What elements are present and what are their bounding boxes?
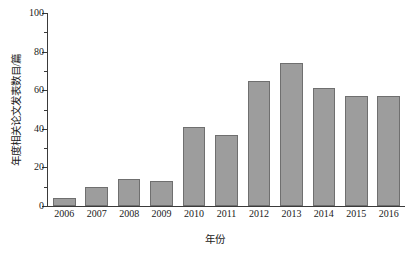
x-axis-title: 年份 — [0, 231, 416, 246]
x-axis-line — [47, 206, 405, 207]
y-tick-minor — [44, 32, 47, 33]
bar — [248, 81, 271, 206]
x-axis-title-text: 年份 — [191, 234, 225, 245]
bar-chart: 年度相关论文发表数目/篇 020406080100 20062007200820… — [0, 0, 416, 253]
y-tick-label: 100 — [4, 8, 44, 18]
y-tick-minor — [44, 148, 47, 149]
y-tick-minor — [44, 110, 47, 111]
y-tick-label: 20 — [4, 162, 44, 172]
y-axis-title-text: 年度相关论文发表数目/篇 — [12, 54, 23, 167]
y-tick-label: 0 — [4, 201, 44, 211]
bar — [215, 135, 238, 206]
bar — [313, 88, 336, 206]
bar — [280, 63, 303, 206]
y-tick-minor — [44, 187, 47, 188]
x-tick-label: 2016 — [369, 209, 409, 219]
bar — [183, 127, 206, 206]
bar — [118, 179, 141, 206]
y-tick-label: 80 — [4, 47, 44, 57]
bar — [53, 198, 76, 206]
plot-area — [48, 13, 405, 206]
bar — [345, 96, 368, 206]
bar — [150, 181, 173, 206]
bar — [85, 187, 108, 206]
y-tick-minor — [44, 71, 47, 72]
y-axis-title: 年度相关论文发表数目/篇 — [10, 12, 24, 208]
y-tick-label: 60 — [4, 85, 44, 95]
bar — [377, 96, 400, 206]
y-tick-label: 40 — [4, 124, 44, 134]
